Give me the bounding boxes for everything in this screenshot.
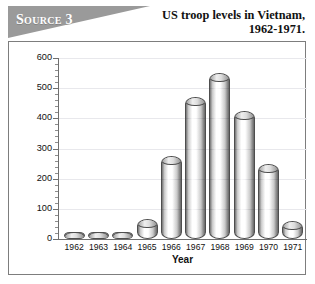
- cylinder-top-cap: [258, 164, 279, 173]
- flag-star-icon: ★: [228, 110, 229, 117]
- bar-cylinder: ★★★: [282, 221, 303, 239]
- bar-cylinder: ★★★★★★★★★: [161, 156, 182, 239]
- flag-star-icon: ★: [201, 123, 205, 130]
- y-tick-label-wrap: 400: [24, 112, 52, 122]
- bar-1971: ★★★: [282, 221, 303, 239]
- gridline: [59, 118, 307, 119]
- y-tick-label: 200: [26, 173, 52, 183]
- us-flag-texture: ★★★★★★★★★: [162, 157, 181, 238]
- flag-star-icon: ★: [180, 171, 181, 178]
- bar-cylinder: ★★★★★★★★★★★★: [209, 73, 230, 239]
- y-tick-label: 500: [26, 82, 52, 92]
- flag-canton: ★★★★★★★★★★★★: [210, 74, 229, 128]
- y-tick-minor: [55, 233, 58, 234]
- chart-plot-frame: Thousands of US troops in Vietnam 010020…: [8, 41, 306, 275]
- flag-canton: ★★★★★★★★★★★★: [186, 98, 205, 152]
- cylinder-top-cap: [161, 156, 182, 165]
- y-tick-major: [53, 118, 58, 119]
- flag-star-icon: ★: [246, 126, 252, 133]
- bar-1970: ★★★★★★★★★: [258, 164, 279, 239]
- flag-star-icon: ★: [219, 99, 225, 106]
- y-tick-label-wrap: 500: [24, 82, 52, 92]
- bar-cylinder: [64, 232, 85, 239]
- y-tick-minor: [55, 64, 58, 65]
- gridline: [59, 149, 307, 150]
- y-tick-minor: [55, 161, 58, 162]
- bar-1963: [88, 232, 109, 239]
- flag-star-icon: ★: [198, 112, 204, 119]
- y-tick-minor: [55, 136, 58, 137]
- flag-stripes: [186, 98, 205, 238]
- cylinder-top-cap: [112, 232, 133, 239]
- flag-stripes: [210, 74, 229, 238]
- flag-star-icon: ★: [195, 123, 201, 130]
- cylinder-shading: [186, 98, 205, 238]
- y-tick-label: 400: [26, 112, 52, 122]
- bar-1968: ★★★★★★★★★★★★: [209, 73, 230, 239]
- y-tick-minor: [55, 142, 58, 143]
- y-tick-label-wrap: 0: [24, 233, 52, 243]
- cylinder-top-cap: [137, 219, 158, 228]
- y-tick-minor: [55, 203, 58, 204]
- flag-star-icon: ★: [191, 112, 197, 119]
- flag-star-icon: ★: [173, 171, 179, 178]
- cylinder-shading: [259, 165, 278, 238]
- flag-star-icon: ★: [253, 126, 254, 133]
- flag-star-icon: ★: [261, 190, 267, 197]
- y-tick-major: [53, 149, 58, 150]
- cylinder-top-cap: [64, 232, 85, 239]
- flag-star-icon: ★: [274, 190, 278, 197]
- gridline: [59, 88, 307, 89]
- plot-area: 0100200300400500600 ★★★★★★★★★★★★★★★★★★★★…: [58, 58, 307, 255]
- us-flag-texture: ★★★★★★★★★★★★: [235, 112, 254, 238]
- flag-star-icon: ★: [167, 171, 173, 178]
- flag-star-icon: ★: [250, 137, 254, 144]
- y-tick-minor: [55, 221, 58, 222]
- chart-title: US troop levels in Vietnam, 1962-1971.: [125, 8, 305, 36]
- flag-star-icon: ★: [222, 88, 228, 95]
- chart-title-line1: US troop levels in Vietnam,: [162, 8, 305, 22]
- y-tick-minor: [55, 167, 58, 168]
- y-tick-minor: [55, 124, 58, 125]
- y-tick-label: 300: [26, 143, 52, 153]
- x-axis-title: Year: [58, 254, 307, 265]
- figure-header: Source 3 US troop levels in Vietnam, 196…: [0, 6, 315, 40]
- y-tick-major: [53, 179, 58, 180]
- chart-figure: Source 3 US troop levels in Vietnam, 196…: [0, 0, 315, 284]
- y-tick-minor: [55, 197, 58, 198]
- bar-1962: [64, 232, 85, 239]
- gridline: [59, 58, 307, 59]
- cylinder-top-cap: [209, 73, 230, 82]
- bar-1969: ★★★★★★★★★★★★: [234, 111, 255, 239]
- flag-star-icon: ★: [215, 88, 221, 95]
- us-flag-texture: ★★★★★★★★★★★★: [186, 98, 205, 238]
- y-tick-minor: [55, 112, 58, 113]
- y-axis-title: Thousands of US troops in Vietnam: [6, 0, 20, 70]
- y-tick-minor: [55, 227, 58, 228]
- flag-star-icon: ★: [225, 99, 229, 106]
- y-tick-minor: [55, 70, 58, 71]
- bar-cylinder: ★★★★★★★★★★★★: [185, 97, 206, 239]
- y-tick-minor: [55, 215, 58, 216]
- us-flag-texture: ★★★★★★★★★: [259, 165, 278, 238]
- cylinder-top-cap: [185, 97, 206, 106]
- flag-star-icon: ★: [177, 182, 181, 189]
- flag-star-icon: ★: [170, 182, 176, 189]
- flag-star-icon: ★: [268, 190, 274, 197]
- flag-star-icon: ★: [228, 88, 229, 95]
- source-banner-label: Source 3: [16, 12, 73, 28]
- y-tick-minor: [55, 155, 58, 156]
- flag-star-icon: ★: [243, 137, 249, 144]
- flag-star-icon: ★: [188, 123, 194, 130]
- flag-star-icon: ★: [237, 137, 243, 144]
- y-tick-major: [53, 88, 58, 89]
- bar-1964: [112, 232, 133, 239]
- y-tick-minor: [55, 94, 58, 95]
- flag-star-icon: ★: [240, 148, 246, 155]
- y-tick-label: 600: [26, 52, 52, 62]
- flag-star-icon: ★: [253, 148, 254, 155]
- bar-1967: ★★★★★★★★★★★★: [185, 97, 206, 239]
- flag-star-icon: ★: [191, 134, 197, 141]
- cylinder-shading: [162, 157, 181, 238]
- flag-star-icon: ★: [212, 99, 218, 106]
